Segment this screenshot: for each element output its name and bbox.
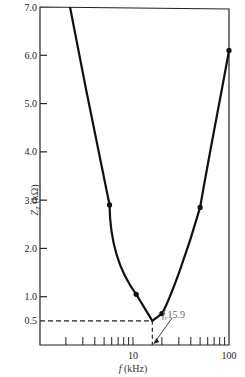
y-tick-label: 5.0 [25,98,38,109]
y-tick-label: 2.0 [25,243,38,254]
x-tick-label: 10 [128,350,138,361]
x-tick-label: 100 [222,350,237,361]
y-tick-label: 0.5 [25,315,38,326]
impedance-curve [70,7,229,321]
y-tick-label: 6.0 [25,50,38,61]
y-tick-label: 7.0 [25,2,38,13]
impedance-frequency-chart: 0.51.02.03.04.05.06.07.0 10100 ZT (kΩ) f… [0,0,245,377]
data-point-marker [226,48,231,53]
data-point-marker [107,202,112,207]
y-tick-label: 1.0 [25,291,38,302]
data-point-marker [198,205,203,210]
x-axis-title: f (kHz) [119,363,148,375]
reference-dashed-lines [40,318,172,345]
y-tick-label: 4.0 [25,146,38,157]
resonant-frequency-label: fr15.9 [162,309,185,322]
x-axis-ticks: 10100 [66,337,237,361]
data-point-marker [134,292,139,297]
y-axis-ticks: 0.51.02.03.04.05.06.07.0 [25,2,48,327]
